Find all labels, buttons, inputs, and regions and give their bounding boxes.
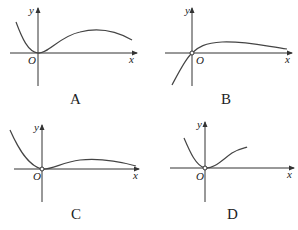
x-axis-label: x (128, 53, 134, 65)
option-label-c: C (71, 206, 81, 222)
four-function-graphs: y x O A y x O B y x O C y x O D (0, 0, 298, 230)
x-axis-label: x (284, 53, 290, 65)
function-curve (10, 130, 136, 169)
option-label-d: D (227, 206, 238, 222)
graph-panel-d: y x O D (170, 118, 294, 222)
origin-label: O (28, 54, 36, 66)
graph-panel-b: y x O B (165, 4, 292, 107)
origin-label: O (196, 170, 204, 182)
option-label-a: A (70, 91, 81, 107)
y-axis-label: y (196, 118, 202, 130)
x-axis-label: x (286, 168, 292, 180)
y-axis-label: y (184, 4, 190, 16)
origin-label: O (196, 54, 204, 66)
origin-label: O (33, 170, 41, 182)
y-axis-label: y (33, 121, 39, 133)
graph-panel-a: y x O A (10, 4, 137, 107)
function-curve (172, 42, 287, 85)
origin-open-circle (190, 51, 194, 55)
x-axis-label: x (132, 169, 138, 181)
option-label-b: B (221, 91, 231, 107)
graph-panel-c: y x O C (10, 121, 139, 222)
y-axis-label: y (28, 4, 34, 16)
function-curve (16, 22, 132, 53)
function-curve (184, 138, 247, 168)
